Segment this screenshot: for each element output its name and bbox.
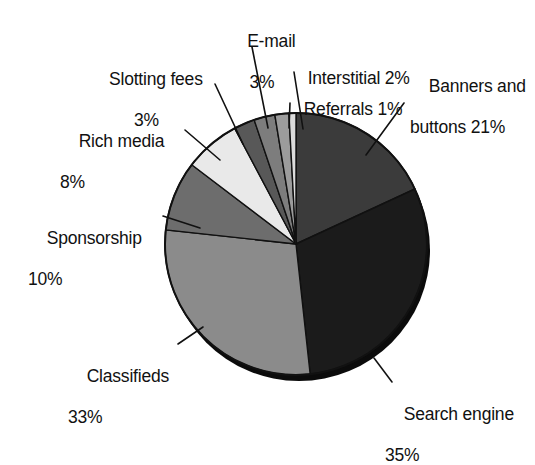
callout-slotting-fees-name: Slotting fees [109,69,203,89]
callout-search-engine-name: Search engine [404,404,514,424]
callout-rich-media-name: Rich media [79,131,165,151]
callout-label-banners-and-buttons: Banners and buttons 21% [410,55,535,179]
callout-sponsorship-value: 10% [28,269,168,290]
callout-classifieds-name: Classifieds [87,366,169,386]
callout-banners-name: Banners and [429,76,526,96]
leader-line-search-engine [374,358,392,382]
callout-sponsorship-name: Sponsorship [47,228,142,248]
callout-classifieds-value: 33% [68,407,198,428]
leader-line-classifieds [178,327,203,344]
callout-label-search-engine: Search engine 35% [385,383,535,465]
callout-banners-value: buttons 21% [410,117,535,138]
callout-rich-media-value: 8% [60,172,190,193]
callout-referrals-name: Referrals 1% [304,99,403,119]
page-caption-fragment [14,430,194,443]
callout-search-engine-value: 35% [385,445,535,465]
callout-label-sponsorship: Sponsorship 10% [28,207,168,331]
callout-label-classifieds: Classifieds 33% [68,345,198,465]
